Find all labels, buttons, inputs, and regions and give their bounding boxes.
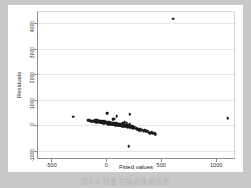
gridline-horizontal (38, 49, 236, 50)
y-axis-title: Residuals (14, 11, 24, 159)
figure-caption: 图4-2 残差与拟合值散点图 (0, 176, 251, 188)
y-axis-tick-label: -1000 (29, 149, 35, 162)
scatter-point (127, 145, 130, 148)
y-axis-tick-label: 3000 (29, 47, 35, 58)
y-axis-tick-label: 1000 (29, 98, 35, 109)
scatter-point (226, 117, 229, 120)
gridline-horizontal (38, 74, 236, 75)
x-axis-title: Fitted values (37, 164, 235, 170)
scatter-point (154, 133, 157, 136)
scatter-point (113, 117, 116, 120)
gridline-horizontal (38, 151, 236, 152)
gridline-horizontal (38, 100, 236, 101)
scatter-point (172, 17, 175, 20)
scatter-point (129, 113, 132, 116)
y-axis-tick-label: 0 (29, 123, 35, 126)
plot-area: -100001000200030004000-50005001000 (37, 11, 235, 159)
scatter-point (72, 116, 75, 119)
gridline-horizontal (38, 23, 236, 24)
scatter-point (87, 119, 90, 122)
figure-root: -100001000200030004000-50005001000 Resid… (0, 0, 251, 188)
y-axis-title-text: Residuals (16, 72, 22, 98)
scatter-point (125, 122, 128, 125)
scatter-point (106, 112, 109, 115)
y-axis-tick-label: 2000 (29, 72, 35, 83)
y-axis-tick-label: 4000 (29, 21, 35, 32)
